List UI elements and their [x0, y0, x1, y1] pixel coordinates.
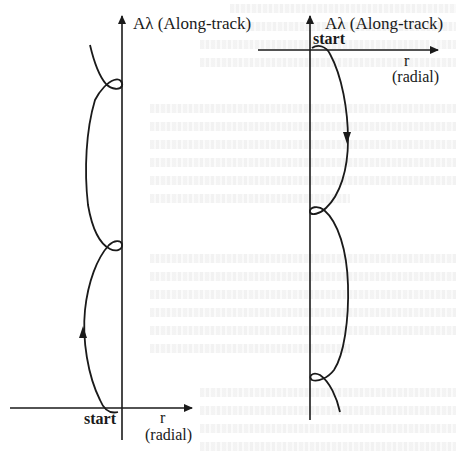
left-trajectory-curve [84, 45, 122, 413]
right-trajectory-curve [310, 46, 348, 412]
right-radial-label: (radial) [392, 68, 439, 86]
left-radial-label: (radial) [145, 426, 192, 444]
left-vertical-axis-label: Aλ (Along-track) [133, 14, 251, 34]
left-panel [10, 16, 192, 440]
left-direction-arrow-icon [79, 326, 87, 338]
right-start-label: start [313, 30, 345, 48]
left-start-label: start [84, 410, 116, 428]
orbit-diagram [0, 0, 456, 451]
left-r-label: r [160, 409, 165, 427]
right-direction-arrow-icon [343, 132, 351, 144]
